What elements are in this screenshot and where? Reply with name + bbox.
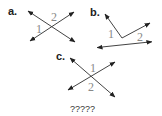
angle-2-label-b: 2	[137, 30, 143, 44]
angle-diagram: a. 1 2 b. 1 2 c. 1 2 ?????	[0, 0, 162, 116]
figure-c-label: c.	[56, 50, 65, 62]
figure-a: a. 1 2	[8, 5, 75, 42]
caption: ?????	[70, 104, 95, 114]
figure-c: c. 1 2	[56, 50, 115, 97]
figure-b: b. 1 2	[90, 6, 152, 48]
angle-2-label-c: 2	[88, 80, 94, 94]
angle-1-label-b: 1	[108, 27, 114, 41]
figure-a-label: a.	[8, 5, 17, 17]
angle-2-label-a: 2	[51, 10, 57, 24]
angle-1-label-a: 1	[36, 22, 42, 36]
figure-b-label: b.	[90, 6, 100, 18]
angle-1-label-c: 1	[90, 61, 96, 75]
ray-b-up-right	[122, 23, 150, 38]
line-b-base	[97, 42, 152, 48]
